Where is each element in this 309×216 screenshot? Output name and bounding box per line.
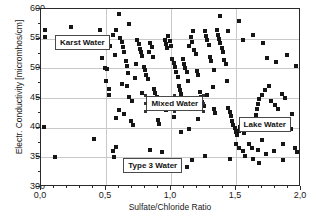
data-point [264,152,268,156]
data-point [133,76,137,80]
data-point [151,55,155,59]
selection-handle[interactable] [144,110,147,113]
data-point [260,138,264,142]
data-point [127,22,131,26]
data-point [121,45,125,49]
y-axis-title: Electr. Conductivity [micromhos/cm] [14,2,24,172]
data-point [226,29,230,33]
data-point [107,93,111,97]
data-point [203,29,207,33]
data-point [113,53,117,57]
data-point [157,122,161,126]
data-point [251,33,255,37]
data-point [276,107,280,111]
data-point [143,68,147,72]
data-point [204,34,208,38]
data-point [181,57,185,61]
annotation-lake-water[interactable]: Lake Water [239,117,291,132]
data-point [100,56,104,60]
x-axis-minor-tick [261,186,262,188]
data-point [125,84,129,88]
annotation-type-3-water[interactable]: Type 3 Water [123,158,182,173]
data-point [257,97,261,101]
data-point [120,40,124,44]
data-point [251,157,255,161]
selection-handle[interactable] [202,94,205,97]
data-point [295,150,299,154]
data-point [267,84,271,88]
data-point [218,14,222,18]
data-point [160,150,164,154]
data-point [237,19,241,23]
data-point [194,52,198,56]
data-point [114,116,118,120]
data-point [130,99,134,103]
x-axis-minor-tick [157,186,158,188]
x-axis-minor-tick [66,186,67,188]
data-point [190,40,194,44]
data-point [124,59,128,63]
data-point [281,158,285,162]
data-point [294,64,298,68]
data-point [255,107,259,111]
x-axis-tick-label: 0,0 [27,191,53,200]
gridline-vertical [236,9,237,185]
data-point [261,41,265,45]
data-point [147,50,151,54]
data-point [235,133,239,137]
x-axis-minor-tick [131,186,132,188]
data-point [111,149,115,153]
data-point [166,34,170,38]
data-point [114,145,118,149]
data-point [205,93,209,97]
x-axis-minor-tick [144,186,145,188]
data-point [257,161,261,165]
data-point [152,87,156,91]
x-axis-minor-tick [183,186,184,188]
data-point [281,142,285,146]
data-point [186,79,190,83]
selection-handle[interactable] [173,94,176,97]
x-axis-minor-tick [287,186,288,188]
x-axis-minor-tick [274,186,275,188]
x-axis-title: Sulfate/Chloride Ratio [40,202,300,212]
data-point [212,68,216,72]
data-point [148,148,152,152]
data-point [98,28,102,32]
selection-handle[interactable] [144,102,147,105]
selection-handle[interactable] [202,110,205,113]
annotation-karst-water[interactable]: Karst Water [55,35,110,50]
data-point [260,93,264,97]
data-point [69,25,73,29]
data-point [263,88,267,92]
data-point [117,12,121,16]
x-axis-minor-tick [79,186,80,188]
data-point [92,137,96,141]
data-point [173,65,177,69]
data-point [211,85,215,89]
data-point [131,123,135,127]
data-point [111,33,115,37]
data-point [112,155,116,159]
selection-handle[interactable] [173,110,176,113]
data-point [104,79,108,83]
data-point [285,53,289,57]
data-point [265,56,269,60]
selection-handle[interactable] [144,94,147,97]
x-axis-tick-label: 1,0 [157,191,183,200]
data-point [43,28,47,32]
data-point [107,87,111,91]
data-point [213,111,217,115]
selection-handle[interactable] [202,102,205,105]
annotation-mixed-water[interactable]: Mixed Water [146,96,203,111]
data-point [209,59,213,63]
data-point [190,158,194,162]
data-point [250,146,254,150]
data-point [42,125,46,129]
x-axis-tick-label: 0,5 [92,191,118,200]
data-point [126,71,130,75]
data-point [120,82,124,86]
data-point [283,96,287,100]
data-point [43,35,47,39]
x-axis-minor-tick [53,186,54,188]
